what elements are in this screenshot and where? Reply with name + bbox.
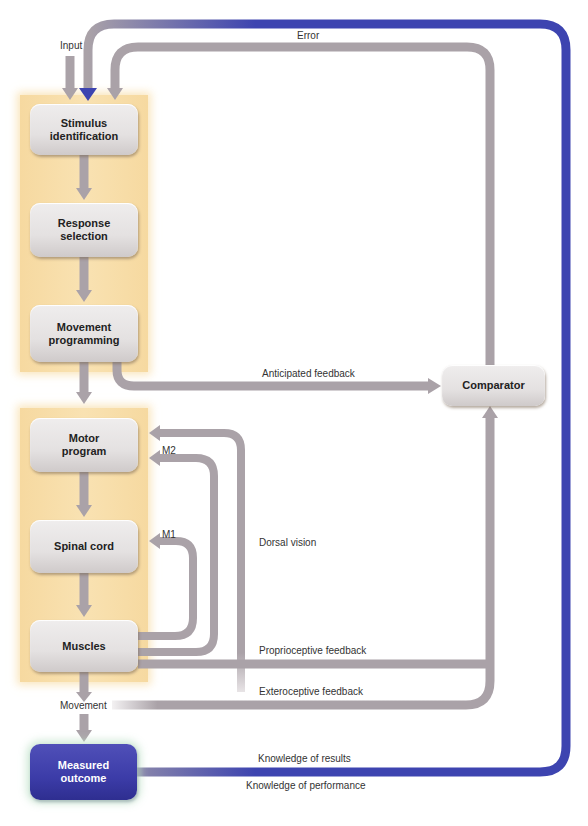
m1-arrowhead (149, 533, 160, 549)
exteroceptive-feedback-label: Exteroceptive feedback (259, 686, 363, 697)
comparator-up-arrowhead (482, 406, 498, 418)
comparator-box: Comparator (442, 365, 545, 406)
m2-arrowhead (149, 450, 160, 466)
error-label: Error (297, 30, 319, 41)
stimulus-identification-box: Stimulusidentification (30, 104, 138, 155)
motor-program-box: Motorprogram (30, 418, 138, 472)
anticipated-feedback-label: Anticipated feedback (262, 368, 355, 379)
input-arrowhead (62, 88, 78, 100)
m1-loop (138, 541, 193, 636)
knowledge-of-results-label: Knowledge of results (258, 753, 351, 764)
dorsal-vision-label: Dorsal vision (259, 537, 316, 548)
m2-loop (138, 458, 214, 652)
measured-outcome-box: Measuredoutcome (30, 744, 137, 800)
knowledge-of-performance-label: Knowledge of performance (246, 780, 366, 791)
m2-label: M2 (162, 445, 176, 456)
input-label: Input (60, 40, 82, 51)
spinal-cord-box: Spinal cord (30, 520, 138, 573)
error-arrowhead (107, 88, 123, 100)
m1-label: M1 (162, 529, 176, 540)
motor-control-diagram: Stimulusidentification Responseselection… (0, 0, 588, 826)
knowledge-arrowhead (79, 88, 97, 101)
muscles-box: Muscles (30, 620, 138, 672)
proprioceptive-feedback-label: Proprioceptive feedback (259, 645, 366, 656)
dorsal-arrowhead (149, 425, 160, 441)
movement-label: Movement (60, 700, 107, 711)
error-loop (115, 47, 490, 365)
response-selection-box: Responseselection (30, 203, 138, 257)
movement-programming-box: Movementprogramming (30, 305, 138, 362)
anticipated-arrowhead (428, 378, 441, 394)
